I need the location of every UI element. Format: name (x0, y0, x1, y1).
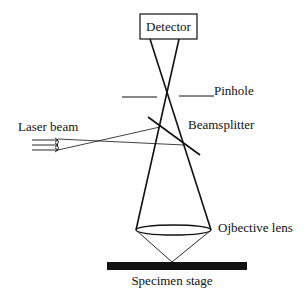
objective-lens-label: Ojbective lens (218, 220, 293, 235)
laser-beam-label: Laser beam (18, 119, 78, 134)
beam-line-right (150, 39, 211, 230)
beamsplitter-label: Beamsplitter (188, 117, 255, 132)
laser-arrows (32, 138, 59, 152)
emission-cone (136, 39, 211, 230)
specimen-stage-label: Specimen stage (131, 273, 212, 288)
focus-line-right (172, 231, 210, 262)
specimen-stage (107, 262, 247, 270)
pinhole-label: Pinhole (214, 83, 254, 98)
objective-lens (136, 225, 211, 235)
laser-ray-upper (58, 139, 184, 145)
detector-label: Detector (146, 19, 191, 34)
confocal-diagram: Detector Pinhole Beamsplitter Laser beam… (0, 0, 307, 299)
detector: Detector (140, 14, 197, 39)
focus-line-left (137, 231, 172, 262)
